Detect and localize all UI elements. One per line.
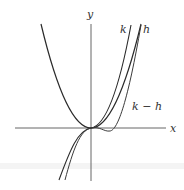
curve-k	[59, 25, 131, 180]
curve-h-label: h	[143, 24, 150, 35]
x-axis-label: x	[170, 123, 176, 134]
graph	[0, 0, 184, 190]
curve-k-label: k	[120, 24, 127, 35]
curve-k-minus-h-label: k − h	[132, 101, 162, 112]
curve-h	[65, 25, 141, 180]
y-axis-label: y	[87, 9, 93, 20]
